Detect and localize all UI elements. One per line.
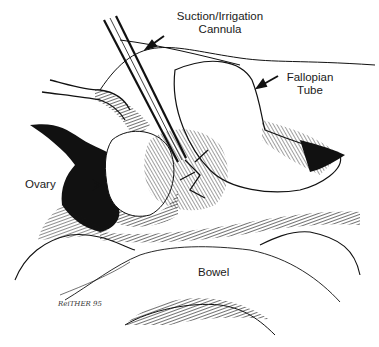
cannula-label-line1: Suction/Irrigation (170, 10, 270, 23)
tube-label-line1: Fallopian (280, 71, 340, 84)
illustration-canvas: Suction/Irrigation Cannula Fallopian Tub… (0, 0, 379, 347)
ovary-label: Ovary (25, 178, 56, 191)
anatomy-drawing (0, 0, 379, 347)
cannula-label: Suction/Irrigation Cannula (170, 10, 270, 36)
tube-label-line2: Tube (280, 84, 340, 97)
artist-signature: ReiTHER 95 (58, 300, 102, 308)
cannula-label-line2: Cannula (170, 23, 270, 36)
fallopian-tube-label: Fallopian Tube (280, 71, 340, 97)
bowel-label: Bowel (198, 266, 229, 279)
bowel-shadow (125, 298, 270, 325)
